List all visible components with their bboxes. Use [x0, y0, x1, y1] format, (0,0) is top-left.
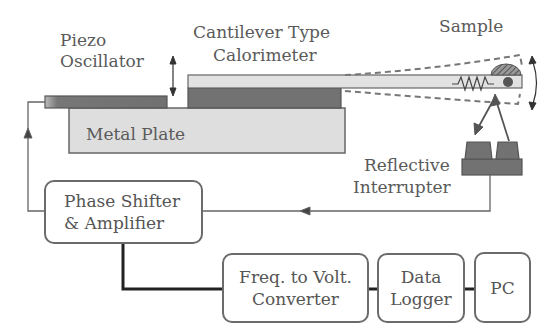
reflective-label-line2: Interrupter	[353, 177, 451, 198]
metal-plate-label: Metal Plate	[86, 124, 185, 145]
cantilever-label-line2: Calorimeter	[213, 45, 317, 66]
reflective-label-line1: Reflective	[364, 155, 450, 176]
phase-shifter-line1: Phase Shifter	[64, 190, 180, 212]
deflection-arrow-icon	[529, 56, 537, 110]
f2v-line1: Freq. to Volt.	[239, 266, 352, 288]
piezo-label-line2: Oscillator	[60, 51, 144, 72]
cantilever-label-line1: Cantilever Type	[193, 22, 330, 43]
data-logger-block: Data Logger	[377, 253, 465, 323]
diagram-canvas: Piezo Oscillator Cantilever Type Calorim…	[0, 0, 553, 333]
cantilever-base-block	[188, 88, 341, 108]
data-logger-line1: Data	[401, 266, 442, 288]
phase-shifter-line2: & Amplifier	[64, 212, 164, 234]
reflective-interrupter	[462, 142, 522, 175]
pc-block: PC	[474, 252, 531, 323]
sample-label: Sample	[439, 16, 503, 37]
freq-to-volt-converter-block: Freq. to Volt. Converter	[222, 253, 369, 323]
f2v-line2: Converter	[252, 288, 339, 310]
piezo-oscillator-bar	[45, 96, 167, 108]
pc-label: PC	[490, 277, 514, 299]
vertical-oscillation-arrow-icon	[170, 56, 176, 96]
phase-shifter-amplifier-block: Phase Shifter & Amplifier	[44, 180, 203, 244]
piezo-label-line1: Piezo	[60, 30, 106, 51]
drive-signal-line	[24, 102, 45, 211]
data-logger-line2: Logger	[390, 288, 451, 310]
